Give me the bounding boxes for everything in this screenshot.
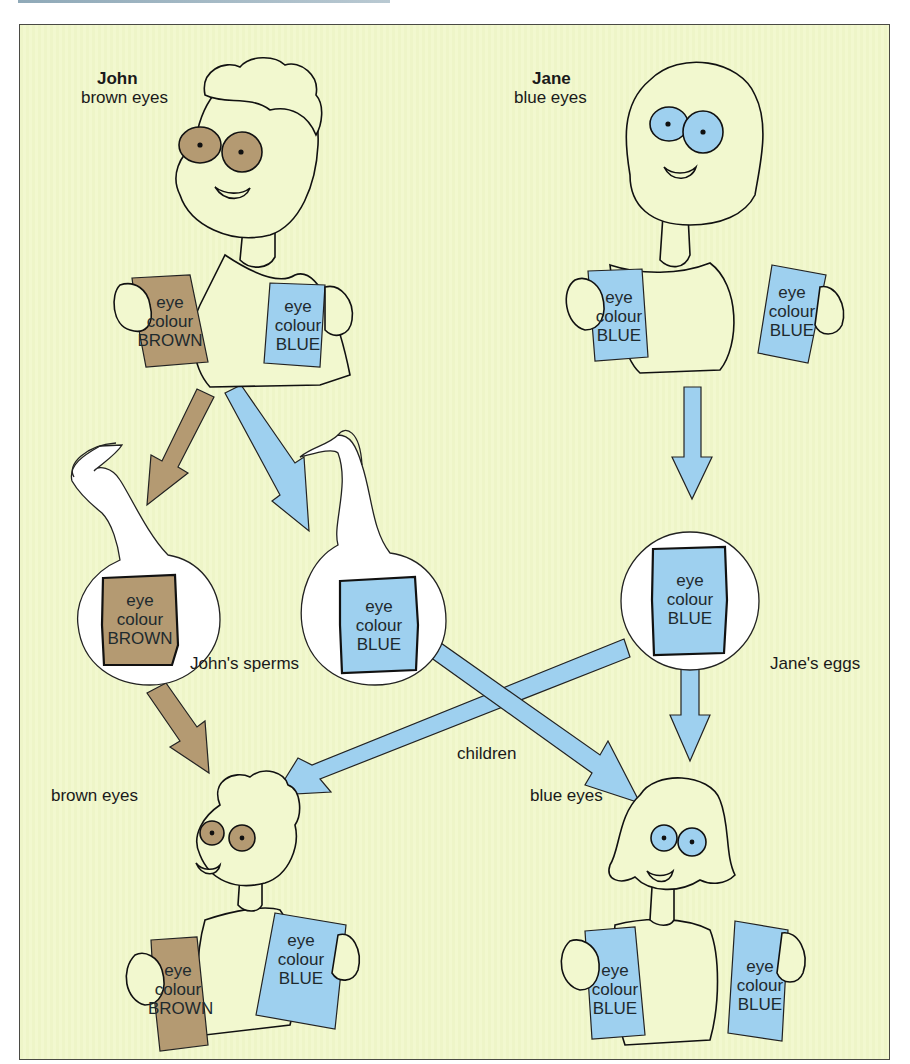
- john-card-blue-text: eyecolourBLUE: [268, 297, 328, 354]
- sperm-brown-text: eyecolourBROWN: [102, 591, 178, 648]
- diagram-frame: John brown eyes Jane blue eyes eyecolour…: [19, 24, 890, 1060]
- children-label: children: [457, 744, 517, 764]
- john-card-brown-text: eyecolourBROWN: [130, 293, 210, 350]
- egg-blue-text: eyecolourBLUE: [653, 571, 727, 628]
- sperm-blue-text: eyecolourBLUE: [340, 597, 418, 654]
- john-trait: brown eyes: [81, 88, 168, 108]
- child1-card-blue-text: eyecolourBLUE: [268, 931, 334, 988]
- jane-trait: blue eyes: [514, 88, 587, 108]
- child2-trait: blue eyes: [530, 786, 603, 806]
- illustration: [20, 25, 890, 1060]
- jane-card-right-text: eyecolourBLUE: [762, 283, 822, 340]
- child2-card-right-text: eyecolourBLUE: [732, 957, 788, 1014]
- janes-eggs-label: Jane's eggs: [770, 654, 860, 674]
- child1-trait: brown eyes: [51, 786, 138, 806]
- john-name: John: [97, 69, 138, 89]
- jane-name: Jane: [532, 69, 571, 89]
- jane-card-left-text: eyecolourBLUE: [590, 288, 648, 345]
- child1-card-brown-text: eyecolourBROWN: [148, 961, 208, 1018]
- child2-card-left-text: eyecolourBLUE: [586, 961, 644, 1018]
- johns-sperms-label: John's sperms: [190, 654, 299, 674]
- top-accent-bar: [18, 0, 390, 3]
